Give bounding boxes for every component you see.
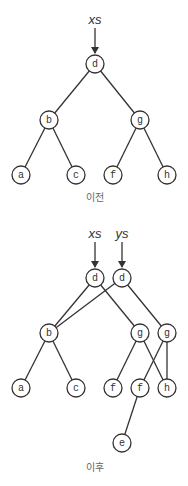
node-label: f: [110, 170, 116, 181]
node-label: g: [137, 328, 143, 339]
node-label: a: [18, 170, 24, 181]
tree-node-d2: d: [113, 269, 131, 287]
tree-node-a: a: [12, 379, 30, 397]
pointer-label-ys: ys: [115, 226, 130, 241]
node-label: b: [46, 328, 52, 339]
edge-d1-b: [49, 278, 95, 333]
tree-node-f2: f: [131, 379, 149, 397]
node-label: g: [137, 115, 143, 126]
tree-node-g: g: [131, 111, 149, 129]
node-label: d: [119, 273, 125, 284]
node-label: h: [164, 170, 170, 181]
nodes-layer: dbgacfhddbggacffhe: [12, 55, 176, 452]
tree-node-c: c: [67, 379, 85, 397]
node-label: h: [164, 383, 170, 394]
tree-node-g1: g: [131, 324, 149, 342]
tree-node-a: a: [12, 166, 30, 184]
tree-node-b: b: [40, 324, 58, 342]
node-label: a: [18, 383, 24, 394]
tree-diagram-canvas: xsxsys dbgacfhddbggacffhe 이전이후: [0, 0, 188, 486]
tree-node-f: f: [104, 166, 122, 184]
diagram-caption: 이전: [86, 192, 104, 203]
tree-node-f1: f: [104, 379, 122, 397]
tree-node-b: b: [40, 111, 58, 129]
edge-d-b: [49, 64, 95, 120]
node-label: c: [73, 383, 79, 394]
tree-node-c: c: [67, 166, 85, 184]
tree-node-d: d: [86, 55, 104, 73]
tree-node-h: h: [158, 379, 176, 397]
tree-node-h: h: [158, 166, 176, 184]
node-label: f: [110, 383, 116, 394]
edge-d-g: [95, 64, 140, 120]
node-label: d: [92, 273, 98, 284]
pointers-layer: xsxsys: [88, 12, 130, 267]
tree-node-g2: g: [158, 324, 176, 342]
node-label: d: [92, 59, 98, 70]
node-label: g: [164, 328, 170, 339]
tree-node-d1: d: [86, 269, 104, 287]
pointer-label-xs: xs: [88, 226, 103, 241]
edge-d2-b: [49, 278, 122, 333]
node-label: f: [137, 383, 143, 394]
diagram-caption: 이후: [86, 462, 104, 473]
tree-node-e: e: [113, 434, 131, 452]
node-label: e: [119, 438, 125, 449]
node-label: c: [73, 170, 79, 181]
pointer-label-xs: xs: [88, 12, 103, 27]
node-label: b: [46, 115, 52, 126]
